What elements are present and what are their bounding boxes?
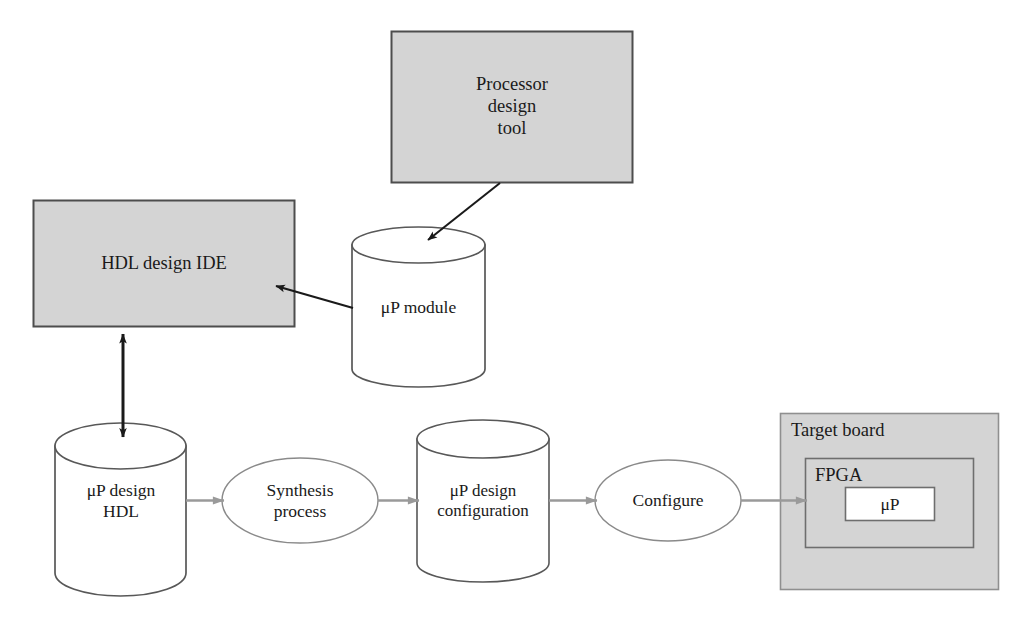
node-up-design-hdl — [55, 423, 186, 596]
node-up-design-configuration — [417, 420, 549, 582]
diagram-shapes-layer — [0, 0, 1031, 626]
node-hdl-design-ide — [34, 201, 295, 327]
node-up — [846, 488, 935, 521]
node-synthesis-process — [222, 458, 378, 543]
label-target-board: Target board — [791, 421, 884, 440]
label-fpga: FPGA — [815, 466, 862, 485]
node-up-module — [352, 227, 485, 387]
diagram-canvas: Processor design tool HDL design IDE μP … — [0, 0, 1031, 626]
node-processor-design-tool — [392, 32, 633, 183]
node-configure — [595, 460, 741, 541]
